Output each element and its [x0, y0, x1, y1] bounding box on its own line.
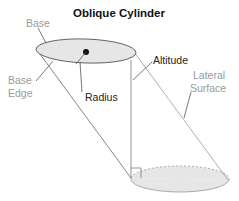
diagram-title: Oblique Cylinder — [73, 7, 166, 19]
label-base: Base — [26, 17, 50, 29]
lateral-leader — [184, 92, 191, 118]
label-lateral-2: Surface — [190, 82, 226, 94]
bottom-base — [131, 166, 229, 192]
altitude-leader — [133, 62, 152, 80]
label-radius: Radius — [85, 91, 118, 103]
radius-leader — [80, 62, 82, 92]
base-leader — [38, 28, 46, 43]
label-lateral-1: Lateral — [193, 69, 225, 81]
base-edge-leader — [36, 61, 53, 81]
oblique-cylinder-diagram: Oblique Cylinder Base Base Edge Radius A… — [0, 0, 239, 201]
label-base-edge-2: Edge — [8, 87, 33, 99]
label-altitude: Altitude — [153, 54, 188, 66]
left-lateral-edge — [37, 50, 131, 178]
label-base-edge-1: Base — [8, 74, 32, 86]
